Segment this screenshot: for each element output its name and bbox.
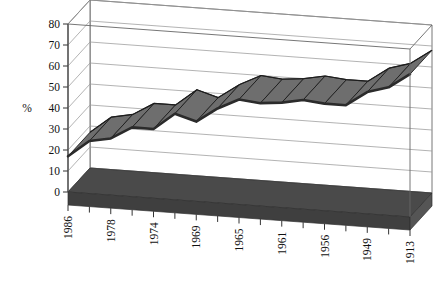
- x-tick-label: 1965: [233, 228, 245, 251]
- x-tick-label: 1913: [404, 241, 416, 264]
- x-tick-label: 1974: [148, 222, 160, 245]
- chart-container: 01020304050607080%1986197819741969196519…: [0, 0, 439, 295]
- y-tick-label: 60: [49, 60, 61, 72]
- x-tick-label: 1969: [190, 225, 202, 248]
- x-tick-label: 1956: [319, 235, 331, 258]
- y-tick-label: 10: [49, 165, 61, 177]
- y-tick-label: 0: [54, 186, 60, 198]
- y-tick-label: 80: [49, 18, 61, 30]
- x-tick-label: 1961: [276, 231, 288, 254]
- y-tick-label: 50: [49, 81, 61, 93]
- line-chart-3d: 01020304050607080%1986197819741969196519…: [0, 0, 439, 295]
- x-tick-label: 1949: [361, 238, 373, 261]
- x-tick-label: 1978: [105, 219, 117, 242]
- y-tick-label: 40: [49, 102, 61, 114]
- y-tick-label: 30: [49, 123, 61, 135]
- y-tick-label: 70: [49, 39, 61, 51]
- x-tick-label: 1986: [62, 216, 74, 239]
- y-tick-label: 20: [49, 144, 61, 156]
- y-axis-title: %: [22, 102, 32, 114]
